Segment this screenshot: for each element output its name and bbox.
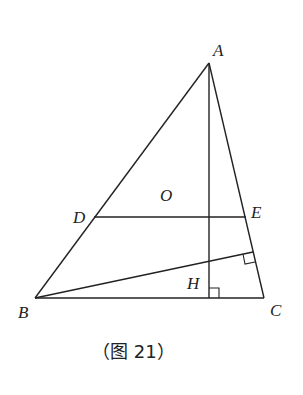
label-O: O [160,186,172,205]
label-H: H [186,274,201,293]
right-angle-mark-F [243,254,255,264]
figure-caption: （图 21） [92,341,175,362]
geometry-figure: A B C D E O H （图 21） [0,0,303,395]
label-E: E [250,203,262,222]
label-B: B [18,303,29,322]
segment-AB [35,63,209,298]
right-angle-mark-foot [209,288,219,298]
segment-BF [35,252,253,298]
label-D: D [72,208,86,227]
label-C: C [270,301,282,320]
segment-AC [209,63,264,298]
label-A: A [212,41,224,60]
